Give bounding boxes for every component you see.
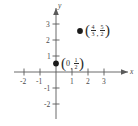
data-point-b bbox=[77, 28, 83, 34]
point-a-close-paren: ) bbox=[79, 58, 84, 69]
coordinate-plane-figure: -2 -1 1 2 3 3 2 1 -1 -2 x y ( 0 , 1 2 ) … bbox=[0, 0, 138, 126]
point-b-y-denominator: 2 bbox=[100, 30, 105, 37]
y-axis-label: y bbox=[58, 2, 61, 10]
point-b-x-denominator: 3 bbox=[91, 30, 96, 37]
point-a-label: ( 0 , 1 2 ) bbox=[61, 57, 84, 71]
point-b-x-fraction: 4 3 bbox=[91, 24, 96, 38]
point-b-close-paren: ) bbox=[105, 25, 110, 36]
point-b-label: ( 4 3 , 5 2 ) bbox=[85, 24, 110, 38]
x-tick-label--1: -1 bbox=[36, 78, 42, 86]
y-tick-label--2: -2 bbox=[44, 101, 50, 109]
x-tick-label--2: -2 bbox=[20, 78, 26, 86]
x-tick-label-3: 3 bbox=[102, 78, 106, 86]
x-axis-arrowhead bbox=[121, 69, 128, 75]
y-tick-label-1: 1 bbox=[47, 53, 51, 61]
x-tick-label-1: 1 bbox=[70, 78, 74, 86]
y-tick-label-2: 2 bbox=[46, 37, 50, 45]
data-point-a bbox=[53, 61, 59, 67]
point-b-open-paren: ( bbox=[85, 25, 90, 36]
point-a-y-denominator: 2 bbox=[74, 63, 79, 70]
point-a-y-fraction: 1 2 bbox=[74, 57, 79, 71]
y-tick-label-3: 3 bbox=[46, 21, 50, 29]
x-tick-label-2: 2 bbox=[86, 78, 90, 86]
y-tick-label--1: -1 bbox=[44, 85, 50, 93]
point-b-y-fraction: 5 2 bbox=[100, 24, 105, 38]
x-axis-label: x bbox=[130, 68, 133, 76]
